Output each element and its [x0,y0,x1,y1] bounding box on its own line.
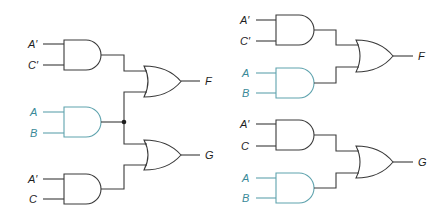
and-gate-icon [256,173,314,203]
input-label: A′ [28,174,37,185]
input-label: A [242,68,249,79]
input-label: B [242,193,249,204]
logic-circuit-figure: A′ C′ A B A′ C F G A′ C′ A B A′ C A B F … [0,0,446,218]
and-gate-icon [43,174,101,204]
and-gate-icon [43,40,101,70]
output-label: G [205,150,214,161]
left-circuit [43,40,200,204]
or-gate-icon [144,66,181,97]
or-gate-icon [356,40,393,72]
output-label: F [205,76,212,87]
input-label: A [242,173,249,184]
junction-dot-icon [122,120,127,125]
or-gate-icon [356,146,393,178]
wires [314,30,413,188]
output-label: G [418,157,427,168]
input-label: A′ [240,15,249,26]
or-gate-icon [144,140,181,170]
input-label: A′ [240,119,249,130]
and-gate-icon [256,15,314,45]
input-label: C [29,194,37,205]
input-label: B [242,88,249,99]
output-label: F [418,51,425,62]
input-label: C [241,141,249,152]
input-label: C′ [240,36,250,47]
wires [101,55,200,189]
input-label: B [30,128,37,139]
input-label: A′ [28,39,37,50]
circuit-drawing [0,0,446,218]
right-circuit [256,15,413,203]
and-gate-icon [256,68,314,98]
input-label: A [30,107,37,118]
and-gate-icon [43,107,101,137]
and-gate-icon [256,120,314,150]
input-label: C′ [28,60,38,71]
